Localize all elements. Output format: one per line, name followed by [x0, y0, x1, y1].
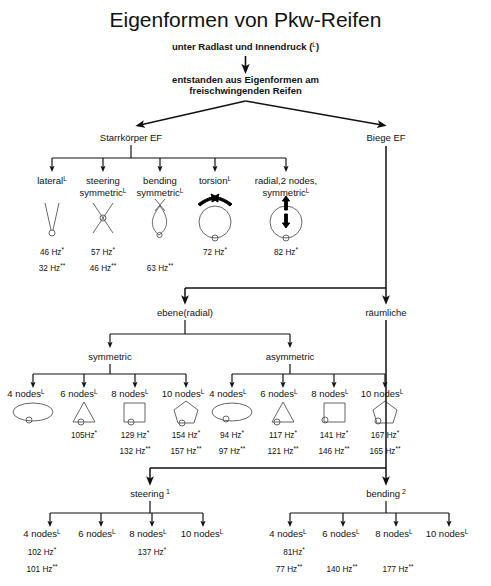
- eigenformen-diagram: Eigenformen von Pkw-Reifen unter Radlast…: [0, 0, 491, 586]
- svg-text:symmetricL: symmetricL: [80, 187, 127, 199]
- freq-dstar: 32 Hz: [39, 264, 60, 273]
- symmetric-mode-8-nodes: 8 nodesL 129 Hz* 132 Hz**: [111, 388, 151, 457]
- svg-text:8 nodesL: 8 nodesL: [375, 528, 413, 540]
- superscript-load: L: [41, 388, 45, 395]
- svg-text:32 Hz**: 32 Hz**: [39, 262, 66, 273]
- superscript-load: L: [243, 388, 247, 395]
- superscript-load: L: [180, 187, 184, 194]
- mode-shape-radial-icon: [270, 196, 302, 241]
- rigid-mode-radial-2-nodes: radial,2 nodes, symmetricL 82 Hz*: [255, 175, 317, 257]
- freq-dstar: 121 Hz: [267, 447, 293, 456]
- node-count-label: 8 nodes: [111, 388, 145, 399]
- node-count-label: 4 nodes: [23, 528, 57, 539]
- subtitle-origin-line1: entstanden aus Eigenformen am: [172, 74, 319, 85]
- svg-text:105Hz*: 105Hz*: [71, 429, 98, 440]
- node-count-label: 8 nodes: [129, 528, 163, 539]
- freq-dstar: 146 Hz: [318, 447, 344, 456]
- freq-star: 129 Hz: [121, 431, 147, 440]
- superscript-footnote-1: 1: [166, 488, 170, 495]
- symmetric-mode-10-nodes: 10 nodesL 154 Hz* 157 Hz**: [162, 388, 205, 457]
- svg-text:unter Radlast und Innendruck (: unter Radlast und Innendruck (L): [172, 41, 319, 52]
- svg-text:4 nodesL: 4 nodesL: [7, 388, 45, 400]
- node-bending: bending2: [366, 488, 406, 500]
- superscript-load: L: [400, 388, 404, 395]
- superscript-double-star: **: [408, 563, 414, 570]
- rigid-mode-label: lateral: [37, 175, 63, 186]
- subtitle-radlast-close: ): [316, 41, 319, 52]
- symmetric-mode-6-nodes: 6 nodesL 105Hz*: [60, 388, 98, 441]
- freq-star: 81Hz: [283, 548, 302, 557]
- superscript-load: L: [145, 388, 149, 395]
- svg-text:46 Hz*: 46 Hz*: [40, 246, 64, 257]
- superscript-double-star: **: [145, 445, 151, 452]
- fanout-bending: [290, 501, 449, 524]
- freq-star: 72 Hz: [203, 248, 224, 257]
- mode-shape-pentagon-icon: [373, 401, 397, 424]
- rigid-mode-label: radial,2 nodes,: [255, 175, 317, 186]
- freq-dstar: 165 Hz: [369, 447, 395, 456]
- svg-text:177 Hz**: 177 Hz**: [382, 563, 413, 574]
- subtitle-radlast-text: unter Radlast und Innendruck (: [172, 41, 313, 52]
- mode-shape-ex-icon: [93, 203, 113, 233]
- node-count-label: 10 nodes: [162, 388, 201, 399]
- superscript-load: L: [345, 388, 349, 395]
- mode-shape-vee-icon: [45, 203, 59, 236]
- node-ebene-radial: ebene(radial): [157, 307, 213, 318]
- svg-text:154 Hz*: 154 Hz*: [172, 429, 201, 440]
- symmetric-mode-4-nodes: 4 nodesL: [7, 388, 53, 424]
- superscript-double-star: **: [52, 563, 58, 570]
- svg-text:10 nodesL: 10 nodesL: [181, 528, 224, 540]
- superscript-double-star: **: [293, 445, 299, 452]
- rigid-mode-steering-symmetric: steering symmetricL 57 Hz* 46 Hz**: [80, 175, 127, 273]
- superscript-load: L: [57, 528, 61, 535]
- svg-text:bending: bending: [143, 175, 177, 186]
- steering-mode-10-nodes: 10 nodesL: [181, 528, 224, 540]
- freq-dstar: 77 Hz: [276, 565, 297, 574]
- node-count-label: 10 nodes: [426, 528, 465, 539]
- superscript-star: *: [95, 429, 98, 436]
- fanout-asymmetric: [232, 364, 385, 385]
- rigid-mode-bending-symmetric: bending symmetricL 63 Hz**: [137, 175, 184, 273]
- bending-mode-6-nodes: 6 nodesL 140 Hz**: [322, 528, 360, 575]
- mode-shape-torsion-icon: [198, 194, 232, 241]
- superscript-double-star: **: [168, 262, 174, 269]
- superscript-star: *: [54, 546, 57, 553]
- freq-star: 105Hz: [71, 431, 95, 440]
- subtitle-origin-line2: freischwingenden Reifen: [189, 85, 302, 96]
- node-bending-label: bending: [366, 488, 400, 499]
- svg-text:140 Hz**: 140 Hz**: [326, 563, 357, 574]
- superscript-footnote-2: 2: [402, 488, 406, 495]
- svg-text:10 nodesL: 10 nodesL: [162, 388, 205, 400]
- bending-mode-8-nodes: 8 nodesL 177 Hz**: [375, 528, 414, 575]
- mode-shape-ellipse-icon: [212, 403, 252, 422]
- superscript-double-star: **: [352, 563, 358, 570]
- rigid-mode-lateral: lateralL 46 Hz* 32 Hz**: [37, 175, 67, 274]
- svg-text:81Hz*: 81Hz*: [283, 546, 305, 557]
- fanout-steering: [50, 501, 203, 524]
- node-count-label: 4 nodes: [7, 388, 41, 399]
- freq-star: 154 Hz: [172, 431, 198, 440]
- svg-text:6 nodesL: 6 nodesL: [60, 388, 98, 400]
- svg-text:8 nodesL: 8 nodesL: [311, 388, 349, 400]
- asymmetric-mode-6-nodes: 6 nodesL 117 Hz* 121 Hz**: [260, 388, 299, 457]
- node-count-label: 6 nodes: [78, 528, 112, 539]
- svg-text:lateralL: lateralL: [37, 175, 67, 187]
- superscript-star: *: [346, 429, 349, 436]
- svg-text:4 nodesL: 4 nodesL: [209, 388, 247, 400]
- superscript-star: *: [147, 429, 150, 436]
- asymmetric-mode-4-nodes: 4 nodesL 94 Hz* 97 Hz**: [209, 388, 252, 457]
- svg-text:46 Hz**: 46 Hz**: [90, 262, 117, 273]
- fanout-ebene: [110, 320, 290, 345]
- node-count-label: 10 nodes: [361, 388, 400, 399]
- asymmetric-mode-10-nodes: 10 nodesL 167 Hz* 165 Hz**: [361, 388, 404, 457]
- svg-text:117 Hz*: 117 Hz*: [269, 429, 297, 440]
- svg-text:6 nodesL: 6 nodesL: [322, 528, 360, 540]
- superscript-load: L: [112, 528, 116, 535]
- node-count-label: 6 nodes: [60, 388, 94, 399]
- svg-text:137 Hz*: 137 Hz*: [138, 546, 167, 557]
- freq-star: 137 Hz: [138, 548, 164, 557]
- freq-dstar: 97 Hz: [219, 447, 240, 456]
- superscript-double-star: **: [240, 445, 246, 452]
- freq-dstar: 177 Hz: [382, 565, 408, 574]
- freq-star: 117 Hz: [269, 431, 294, 440]
